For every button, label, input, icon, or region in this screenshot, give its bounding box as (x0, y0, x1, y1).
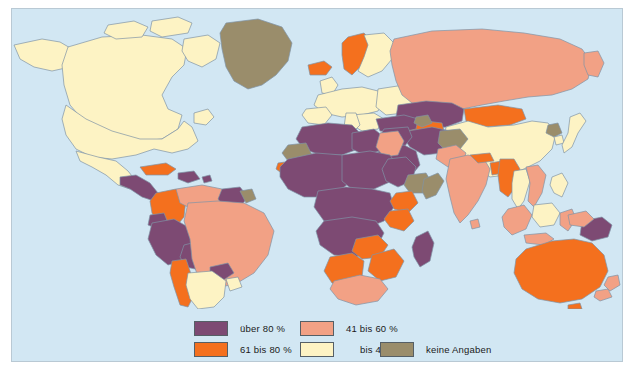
legend-panel: über 80 % 41 bis 60 % 61 bis 80 % bis 40… (12, 309, 622, 361)
world-map-svg[interactable] (12, 9, 622, 309)
legend-swatch-keine-angaben (380, 342, 414, 357)
legend-swatch-41-bis-60 (300, 321, 334, 336)
legend-swatch-61-bis-80 (194, 342, 228, 357)
legend-label-61-bis-80: 61 bis 80 % (240, 344, 292, 355)
legend-item-keine-angaben[interactable]: keine Angaben (380, 342, 491, 357)
legend-item-61-bis-80[interactable]: 61 bis 80 % (194, 342, 292, 357)
legend-item-41-bis-60[interactable]: 41 bis 60 % (300, 321, 398, 336)
legend-label-41-bis-60: 41 bis 60 % (346, 323, 398, 334)
world-map[interactable] (12, 9, 622, 309)
map-frame: über 80 % 41 bis 60 % 61 bis 80 % bis 40… (11, 8, 623, 362)
legend-label-ueber-80: über 80 % (240, 323, 285, 334)
figure-root: über 80 % 41 bis 60 % 61 bis 80 % bis 40… (0, 0, 633, 372)
legend-label-keine-angaben: keine Angaben (426, 344, 491, 355)
legend-swatch-bis-40 (300, 342, 334, 357)
region-sri-lanka[interactable] (470, 219, 480, 229)
legend-item-ueber-80[interactable]: über 80 % (194, 321, 285, 336)
legend-swatch-ueber-80 (194, 321, 228, 336)
